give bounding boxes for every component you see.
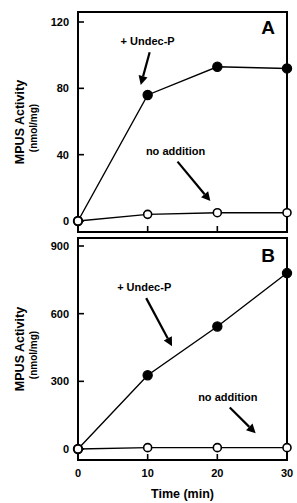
annotation-arrow-A-1 xyxy=(178,162,205,195)
annotation-label-B-0: + Undec-P xyxy=(117,281,171,293)
y-axis-subtitle-A: (nmol/mg) xyxy=(28,104,39,152)
data-point-B-0-3 xyxy=(282,268,291,277)
panel-letter-B: B xyxy=(261,245,275,266)
data-point-A-0-1 xyxy=(143,90,152,99)
data-point-A-1-0 xyxy=(74,217,82,225)
x-axis-title: Time (min) xyxy=(151,487,214,501)
figure-svg: 04080120+ Undec-Pno additionAMPUS Activi… xyxy=(0,0,297,503)
annotation-arrowhead-A-0 xyxy=(139,75,148,85)
series-line-A-1 xyxy=(78,213,287,221)
plot-frame-A xyxy=(78,12,287,232)
y-tick-label-A-0: 0 xyxy=(63,215,69,227)
series-line-B-0 xyxy=(78,273,287,449)
panel-B: 03006009000102030+ Undec-Pno additionBMP… xyxy=(13,238,293,479)
annotation-label-A-0: + Undec-P xyxy=(121,35,175,47)
x-tick-label-1: 10 xyxy=(142,467,154,479)
y-tick-label-A-1: 40 xyxy=(57,149,69,161)
panel-A: 04080120+ Undec-Pno additionAMPUS Activi… xyxy=(13,12,292,232)
annotation-arrow-B-0 xyxy=(146,298,168,338)
annotation-arrow-B-1 xyxy=(230,408,249,427)
y-tick-label-B-2: 600 xyxy=(51,308,69,320)
data-point-A-1-2 xyxy=(213,209,221,217)
x-tick-label-2: 20 xyxy=(211,467,223,479)
y-tick-label-A-2: 80 xyxy=(57,82,69,94)
data-point-A-0-3 xyxy=(282,64,291,73)
y-tick-label-B-0: 0 xyxy=(63,443,69,455)
panel-letter-A: A xyxy=(261,17,275,38)
annotation-arrow-A-0 xyxy=(143,52,150,76)
data-point-B-0-2 xyxy=(213,322,222,331)
x-tick-label-3: 30 xyxy=(281,467,293,479)
plot-frame-B xyxy=(78,238,287,460)
data-point-A-1-1 xyxy=(144,210,152,218)
y-tick-label-B-1: 300 xyxy=(51,375,69,387)
y-axis-title-A: MPUS Activity xyxy=(13,80,27,164)
data-point-A-0-2 xyxy=(213,62,222,71)
annotation-label-A-1: no addition xyxy=(146,145,206,157)
data-point-B-1-1 xyxy=(144,444,152,452)
figure-container: 04080120+ Undec-Pno additionAMPUS Activi… xyxy=(0,0,297,503)
data-point-B-1-0 xyxy=(74,445,82,453)
y-axis-title-B: MPUS Activity xyxy=(13,307,27,391)
y-tick-label-B-3: 900 xyxy=(51,240,69,252)
x-tick-label-0: 0 xyxy=(75,467,81,479)
annotation-label-B-1: no addition xyxy=(198,391,258,403)
series-line-B-1 xyxy=(78,448,287,449)
y-axis-subtitle-B: (nmol/mg) xyxy=(28,331,39,379)
y-tick-label-A-3: 120 xyxy=(51,16,69,28)
data-point-B-1-3 xyxy=(283,444,291,452)
data-point-A-1-3 xyxy=(283,209,291,217)
data-point-B-0-1 xyxy=(143,371,152,380)
data-point-B-1-2 xyxy=(213,444,221,452)
